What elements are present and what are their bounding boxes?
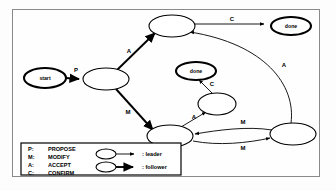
node-mid[interactable] (198, 93, 236, 115)
legend-key-P: P: (28, 146, 34, 152)
node-top[interactable] (149, 15, 195, 37)
state-diagram-canvas: P A M C A A C (0, 0, 336, 191)
edge-label-P: P (74, 67, 78, 73)
legend-label-leader: : leader (142, 151, 163, 157)
edge-label-M-right-bottom: M (241, 119, 246, 125)
node-start[interactable]: start (24, 68, 66, 88)
node-done-mid-label: done (190, 68, 203, 74)
edge-bottom-to-right: M (193, 138, 270, 151)
edge-label-C-top-done: C (230, 16, 235, 22)
edge-label-C-mid-done: C (210, 81, 215, 87)
edge-label-M-bottom-right: M (241, 145, 246, 151)
node-done-mid[interactable]: done (176, 62, 216, 80)
edge-top-to-done-top: C (195, 16, 264, 24)
legend-term-ACCEPT: ACCEPT (48, 162, 72, 168)
node-done-top-label: done (285, 23, 298, 29)
legend-term-CONFIRM: CONFIRM (48, 170, 74, 176)
legend: P: PROPOSE M: MODIFY A: ACCEPT C: CONFIR… (21, 143, 181, 176)
legend-key-A: A: (28, 162, 34, 168)
edge-center-to-bottom: M (116, 89, 153, 130)
legend-term-PROPOSE: PROPOSE (48, 146, 76, 152)
edge-label-A-bottom-mid: A (192, 114, 197, 120)
edge-start-to-center: P (66, 67, 79, 79)
legend-key-M: M: (28, 154, 35, 160)
edge-label-A-right-top: A (282, 62, 287, 68)
node-start-label: start (39, 75, 51, 81)
node-center[interactable] (83, 68, 129, 90)
node-right[interactable] (270, 123, 316, 145)
edge-center-to-top: A (117, 33, 155, 70)
edge-label-A-center-top: A (127, 48, 132, 54)
legend-key-C: C: (28, 170, 34, 176)
diagram-screenshot: P A M C A A C (0, 0, 336, 191)
edge-mid-to-done-mid: C (199, 80, 215, 93)
edge-right-to-bottom: M (195, 119, 272, 134)
legend-term-MODIFY: MODIFY (48, 154, 70, 160)
legend-label-follower: : follower (142, 164, 168, 170)
node-done-top[interactable]: done (271, 17, 311, 35)
edge-label-M-center-bottom: M (126, 109, 131, 115)
